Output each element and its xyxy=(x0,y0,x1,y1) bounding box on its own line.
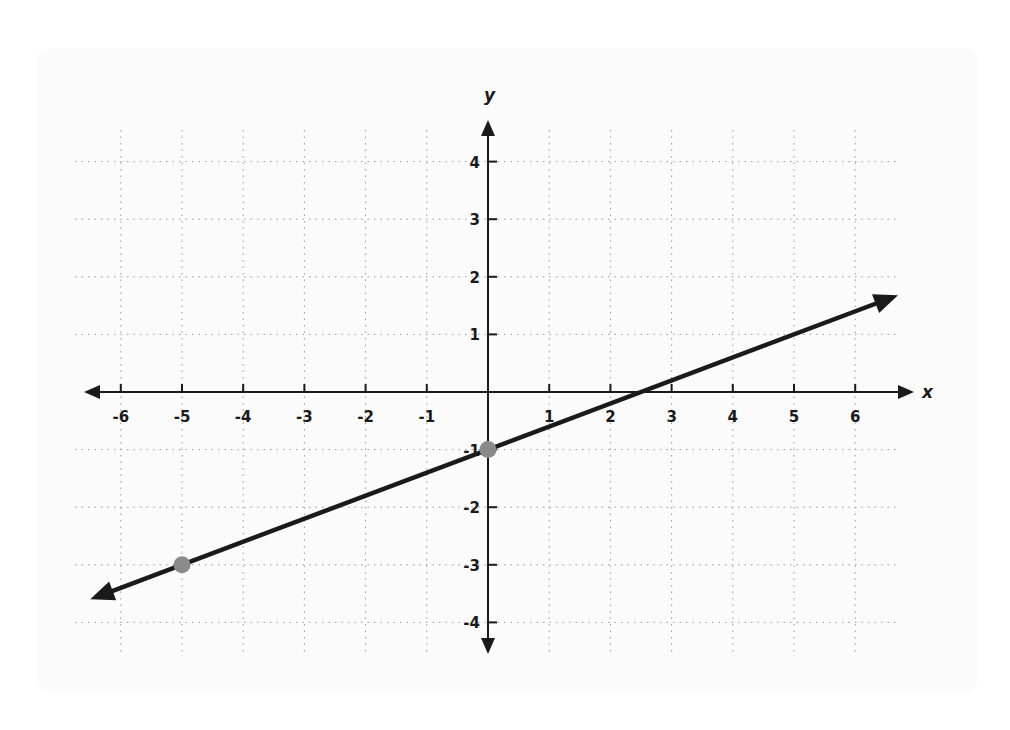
y-tick-label: 2 xyxy=(470,269,480,287)
x-tick-label: 5 xyxy=(789,408,799,426)
x-tick-label: 6 xyxy=(850,408,860,426)
data-point xyxy=(174,556,191,573)
y-tick-label: 1 xyxy=(470,326,480,344)
line-end-arrow-icon xyxy=(872,294,898,313)
x-tick-label: -2 xyxy=(357,408,374,426)
x-tick-label: -6 xyxy=(112,408,129,426)
y-axis-up-arrow-icon xyxy=(481,120,495,136)
line-start-arrow-icon xyxy=(90,582,116,601)
x-tick-label: 2 xyxy=(605,408,615,426)
x-tick-label: -1 xyxy=(418,408,435,426)
y-tick-label: -4 xyxy=(463,614,480,632)
y-tick-label: 4 xyxy=(470,154,480,172)
x-tick-label: -3 xyxy=(296,408,313,426)
y-tick-label: -2 xyxy=(463,499,480,517)
coordinate-plane: -6-5-4-3-2-1123456-4-3-2-11234 x y xyxy=(0,0,1010,730)
x-axis-label: x xyxy=(921,382,934,402)
y-axis-label: y xyxy=(484,85,496,105)
y-axis-down-arrow-icon xyxy=(481,638,495,654)
y-tick-label: -3 xyxy=(463,557,480,575)
x-tick-label: 4 xyxy=(728,408,738,426)
data-point xyxy=(480,441,497,458)
y-tick-label: 3 xyxy=(470,211,480,229)
x-tick-label: -4 xyxy=(235,408,252,426)
x-tick-label: -5 xyxy=(174,408,191,426)
x-tick-label: 3 xyxy=(666,408,676,426)
x-axis-right-arrow-icon xyxy=(898,385,914,399)
axes xyxy=(84,120,914,654)
x-axis-left-arrow-icon xyxy=(84,385,100,399)
